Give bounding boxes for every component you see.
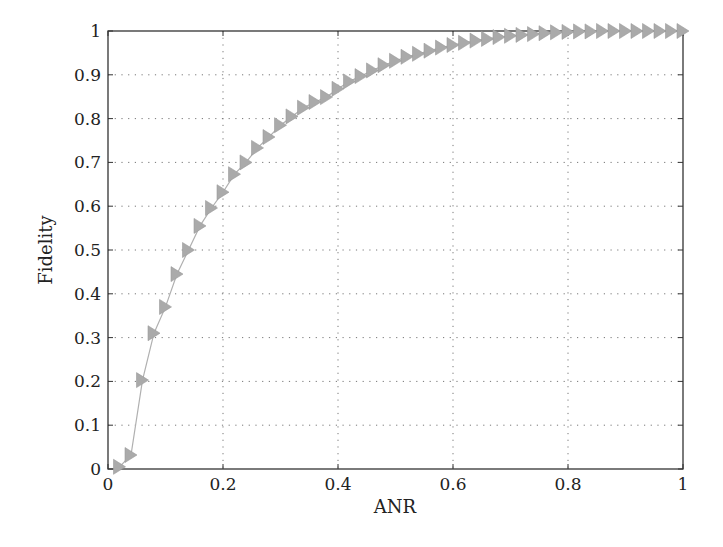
triangle-marker-icon <box>551 25 563 40</box>
triangle-marker-icon <box>332 81 344 96</box>
y-tick-label: 0.8 <box>74 109 101 129</box>
triangle-marker-icon <box>114 459 126 474</box>
triangle-marker-icon <box>654 24 666 39</box>
x-tick-label: 0.8 <box>554 474 581 494</box>
triangle-marker-icon <box>229 167 241 182</box>
y-tick-label: 0.9 <box>74 65 101 85</box>
triangle-marker-icon <box>263 130 275 145</box>
x-axis-label: ANR <box>373 496 417 517</box>
x-tick-label: 0.6 <box>439 474 466 494</box>
triangle-marker-icon <box>355 69 367 84</box>
y-tick-label: 0.7 <box>74 152 101 172</box>
triangle-marker-icon <box>424 43 436 58</box>
triangle-marker-icon <box>378 58 390 73</box>
y-axis-tick-labels: 00.10.20.30.40.50.60.70.80.91 <box>74 21 101 479</box>
triangle-marker-icon <box>137 373 149 388</box>
triangle-marker-icon <box>459 35 471 50</box>
fidelity-chart: 00.20.40.60.81 00.10.20.30.40.50.60.70.8… <box>0 0 723 547</box>
triangle-marker-icon <box>528 27 540 42</box>
y-tick-label: 0.3 <box>74 328 101 348</box>
y-tick-label: 0 <box>90 459 101 479</box>
fidelity-series-markers <box>114 24 690 475</box>
triangle-marker-icon <box>447 38 459 53</box>
y-axis-label: Fidelity <box>35 215 56 285</box>
x-axis-tick-labels: 00.20.40.60.81 <box>103 474 689 494</box>
triangle-marker-icon <box>574 24 586 39</box>
triangle-marker-icon <box>631 24 643 39</box>
triangle-marker-icon <box>298 100 310 115</box>
triangle-marker-icon <box>309 95 321 110</box>
triangle-marker-icon <box>275 118 287 133</box>
triangle-marker-icon <box>344 74 356 89</box>
x-tick-label: 0.2 <box>209 474 236 494</box>
triangle-marker-icon <box>597 24 609 39</box>
triangle-marker-icon <box>493 30 505 45</box>
triangle-marker-icon <box>436 40 448 55</box>
triangle-marker-icon <box>643 24 655 39</box>
y-tick-label: 1 <box>90 21 101 41</box>
triangle-marker-icon <box>217 185 229 200</box>
triangle-marker-icon <box>390 53 402 68</box>
triangle-marker-icon <box>160 299 172 314</box>
triangle-marker-icon <box>470 33 482 48</box>
triangle-marker-icon <box>539 26 551 41</box>
triangle-marker-icon <box>620 24 632 39</box>
triangle-marker-icon <box>608 24 620 39</box>
triangle-marker-icon <box>482 31 494 46</box>
y-tick-label: 0.5 <box>74 240 101 260</box>
x-tick-label: 0.4 <box>324 474 351 494</box>
triangle-marker-icon <box>148 326 160 341</box>
y-tick-label: 0.4 <box>74 284 101 304</box>
triangle-marker-icon <box>183 243 195 258</box>
y-tick-label: 0.2 <box>74 371 101 391</box>
triangle-marker-icon <box>252 140 264 155</box>
triangle-marker-icon <box>585 24 597 39</box>
x-tick-label: 0 <box>103 474 114 494</box>
triangle-marker-icon <box>413 46 425 61</box>
triangle-marker-icon <box>171 267 183 282</box>
triangle-marker-icon <box>516 27 528 42</box>
triangle-marker-icon <box>562 24 574 39</box>
triangle-marker-icon <box>194 218 206 233</box>
x-tick-label: 1 <box>678 474 689 494</box>
fidelity-series-line <box>120 31 684 467</box>
y-tick-label: 0.1 <box>74 415 101 435</box>
triangle-marker-icon <box>125 448 137 463</box>
triangle-marker-icon <box>321 90 333 105</box>
triangle-marker-icon <box>367 63 379 78</box>
triangle-marker-icon <box>666 24 678 39</box>
y-tick-label: 0.6 <box>74 196 101 216</box>
triangle-marker-icon <box>401 49 413 64</box>
triangle-marker-icon <box>286 109 298 124</box>
